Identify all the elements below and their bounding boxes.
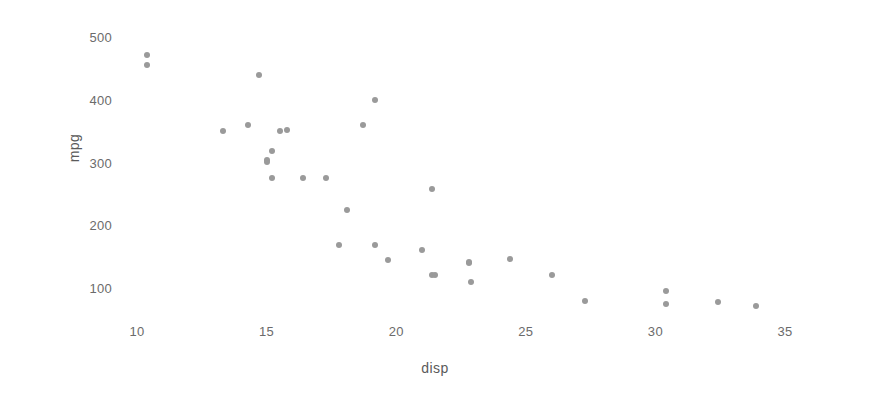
scatter-chart-figure: 100200300400500 mpg 101520253035 disp	[0, 0, 870, 404]
scatter-point	[284, 127, 290, 133]
x-tick-label: 10	[129, 324, 144, 339]
scatter-point	[432, 272, 438, 278]
scatter-point	[753, 303, 759, 309]
scatter-point	[715, 299, 721, 305]
x-tick-label: 15	[259, 324, 274, 339]
scatter-point	[336, 242, 342, 248]
scatter-point	[507, 256, 513, 262]
scatter-point	[582, 298, 588, 304]
scatter-point	[468, 279, 474, 285]
scatter-point	[360, 122, 366, 128]
scatter-point	[220, 128, 226, 134]
x-axis-label: disp	[0, 360, 870, 376]
scatter-point	[269, 148, 275, 154]
scatter-point	[549, 272, 555, 278]
x-tick-label: 25	[518, 324, 533, 339]
scatter-point	[144, 52, 150, 58]
x-tick-label: 35	[777, 324, 792, 339]
scatter-point	[300, 175, 306, 181]
scatter-point	[344, 207, 350, 213]
x-tick-label: 30	[648, 324, 663, 339]
scatter-point	[264, 157, 270, 163]
scatter-point	[429, 186, 435, 192]
scatter-point	[245, 122, 251, 128]
scatter-point	[256, 72, 262, 78]
scatter-point	[663, 301, 669, 307]
scatter-point	[466, 260, 472, 266]
scatter-point	[277, 128, 283, 134]
scatter-point	[419, 247, 425, 253]
scatter-point	[323, 175, 329, 181]
scatter-point	[144, 62, 150, 68]
x-tick-label: 20	[389, 324, 404, 339]
scatter-point	[385, 257, 391, 263]
x-axis-tick-labels: 101520253035	[0, 324, 870, 346]
scatter-point	[663, 288, 669, 294]
scatter-point	[372, 97, 378, 103]
scatter-point	[269, 175, 275, 181]
scatter-point	[372, 242, 378, 248]
